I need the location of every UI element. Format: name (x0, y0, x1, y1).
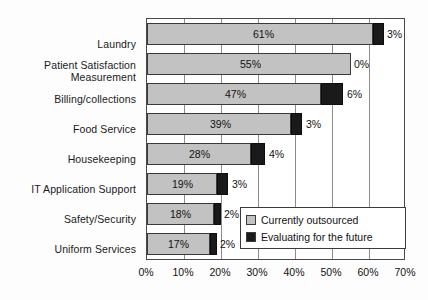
legend-label: Currently outsourced (261, 214, 358, 226)
category-label: Patient Satisfaction Measurement (0, 60, 136, 83)
axis-tick-label: 60% (357, 266, 378, 278)
axis-tick-label: 20% (209, 266, 230, 278)
category-label: Food Service (0, 124, 136, 136)
bar-segment-evaluating (214, 203, 221, 225)
category-label: Billing/collections (0, 94, 136, 106)
bar-chart: Laundry Patient Satisfaction Measurement… (0, 0, 428, 300)
legend-swatch-icon (246, 232, 256, 242)
value-axis: 0% 10% 20% 30% 40% 50% 60% 70% (146, 266, 405, 286)
bar-value-label: 6% (347, 88, 362, 100)
category-label: Housekeeping (0, 154, 136, 166)
bar-value-label: 28% (189, 148, 210, 160)
bar-value-label: 2% (220, 238, 235, 250)
legend-label: Evaluating for the future (261, 231, 373, 243)
category-label: Safety/Security (0, 214, 136, 226)
bar-value-label: 39% (210, 118, 231, 130)
legend-item-evaluating: Evaluating for the future (246, 228, 401, 245)
bar-value-label: 0% (354, 58, 369, 70)
axis-tick-label: 50% (320, 266, 341, 278)
bar-value-label: 19% (172, 178, 193, 190)
axis-tick-label: 70% (394, 266, 415, 278)
bar-segment-evaluating (210, 233, 217, 255)
bar-segment-evaluating (251, 143, 266, 165)
bar-value-label: 61% (253, 28, 274, 40)
bar-segment-evaluating (321, 83, 343, 105)
chart-legend: Currently outsourced Evaluating for the … (240, 207, 406, 249)
bar-value-label: 17% (168, 238, 189, 250)
category-label: Uniform Services (0, 244, 136, 256)
bar-segment-evaluating (291, 113, 302, 135)
category-axis: Laundry Patient Satisfaction Measurement… (0, 18, 140, 260)
category-label: Laundry (0, 39, 136, 51)
axis-tick-label: 40% (283, 266, 304, 278)
bar-value-label: 3% (387, 28, 402, 40)
bar-value-label: 4% (269, 148, 284, 160)
bar-segment-evaluating (373, 23, 384, 45)
axis-tick-label: 30% (246, 266, 267, 278)
bar-value-label: 3% (232, 178, 247, 190)
bar-value-label: 47% (225, 88, 246, 100)
bar-value-label: 3% (306, 118, 321, 130)
bar-value-label: 2% (224, 208, 239, 220)
bar-value-label: 18% (170, 208, 191, 220)
category-label: IT Application Support (0, 184, 136, 196)
bar-value-label: 55% (240, 58, 261, 70)
axis-tick-label: 0% (138, 266, 153, 278)
axis-tick-label: 10% (172, 266, 193, 278)
legend-swatch-icon (246, 215, 256, 225)
bar-segment-evaluating (217, 173, 228, 195)
legend-item-outsourced: Currently outsourced (246, 211, 401, 228)
